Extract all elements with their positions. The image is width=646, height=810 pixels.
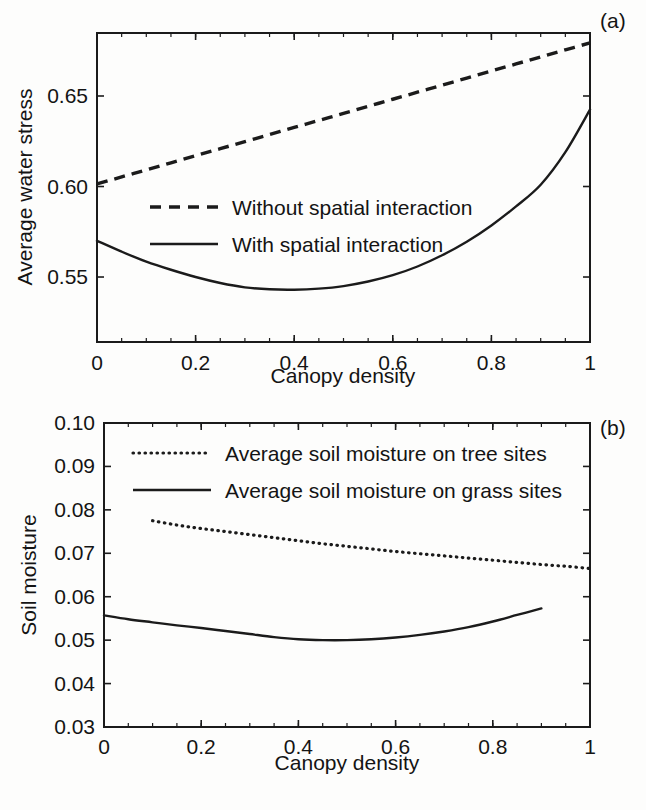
y-tick-label: 0.05 <box>54 628 95 651</box>
y-tick-label: 0.10 <box>54 411 95 434</box>
y-tick-label: 0.65 <box>47 84 88 107</box>
panel-a-plot-area <box>97 33 590 342</box>
legend-label: Average soil moisture on tree sites <box>225 442 547 465</box>
panel-a-plot-background <box>97 33 590 342</box>
x-tick-label: 0.8 <box>477 351 506 374</box>
y-tick-label: 0.60 <box>47 175 88 198</box>
panel-b-svg: 00.20.40.60.81 0.030.040.050.060.070.080… <box>0 405 646 810</box>
y-tick-label: 0.04 <box>54 672 95 695</box>
y-tick-label: 0.03 <box>54 715 95 738</box>
panel-a-x-axis-title: Canopy density <box>271 364 416 387</box>
x-tick-label: 1 <box>584 735 596 758</box>
panel-a-svg: 00.20.40.60.81 0.550.600.65 Canopy densi… <box>0 0 646 405</box>
panel-b-y-axis-title: Soil moisture <box>17 514 40 635</box>
x-tick-label: 0.2 <box>187 735 216 758</box>
panel-b-plot-area <box>104 423 590 727</box>
y-tick-label: 0.07 <box>54 541 95 564</box>
panel-b-soil-moisture: 00.20.40.60.81 0.030.040.050.060.070.080… <box>0 405 646 810</box>
panel-b-tag: (b) <box>600 416 626 439</box>
x-tick-label: 0 <box>91 351 103 374</box>
y-tick-label: 0.55 <box>47 265 88 288</box>
figure-container: 00.20.40.60.81 0.550.600.65 Canopy densi… <box>0 0 646 810</box>
x-tick-label: 1 <box>584 351 596 374</box>
legend-label: Average soil moisture on grass sites <box>225 479 562 502</box>
panel-a-y-axis-title: Average water stress <box>13 89 36 286</box>
panel-a-tag: (a) <box>600 9 626 32</box>
panel-b-x-axis-title: Canopy density <box>275 751 420 774</box>
panel-a-average-water-stress: 00.20.40.60.81 0.550.600.65 Canopy densi… <box>0 0 646 405</box>
x-tick-label: 0.8 <box>478 735 507 758</box>
legend-label: Without spatial interaction <box>232 196 472 219</box>
legend-label: With spatial interaction <box>232 233 443 256</box>
y-tick-label: 0.09 <box>54 454 95 477</box>
x-tick-label: 0.2 <box>181 351 210 374</box>
y-tick-label: 0.06 <box>54 585 95 608</box>
panel-a-y-tick-labels: 0.550.600.65 <box>47 84 88 288</box>
panel-b-y-tick-labels: 0.030.040.050.060.070.080.090.10 <box>54 411 95 738</box>
panel-b-plot-background <box>104 423 590 727</box>
y-tick-label: 0.08 <box>54 498 95 521</box>
x-tick-label: 0 <box>98 735 110 758</box>
